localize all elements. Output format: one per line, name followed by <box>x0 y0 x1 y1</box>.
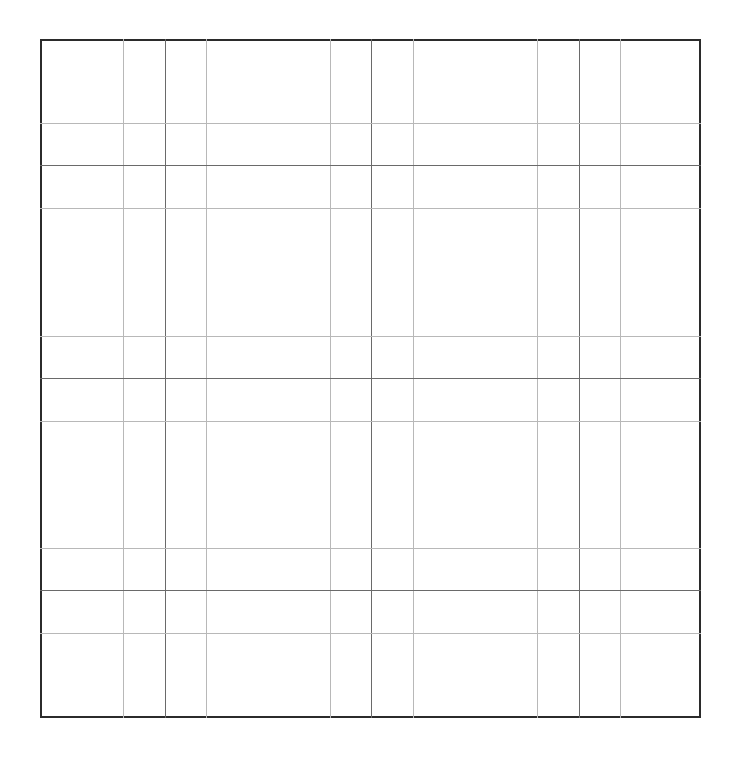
horizontal-grid-line <box>40 633 701 634</box>
horizontal-grid-line <box>40 165 701 166</box>
horizontal-grid-line <box>40 378 701 379</box>
horizontal-grid-line <box>40 336 701 337</box>
horizontal-grid-line <box>40 208 701 209</box>
horizontal-grid-line <box>40 421 701 422</box>
horizontal-grid-line <box>40 123 701 124</box>
horizontal-grid-line <box>40 590 701 591</box>
horizontal-grid-line <box>40 548 701 549</box>
